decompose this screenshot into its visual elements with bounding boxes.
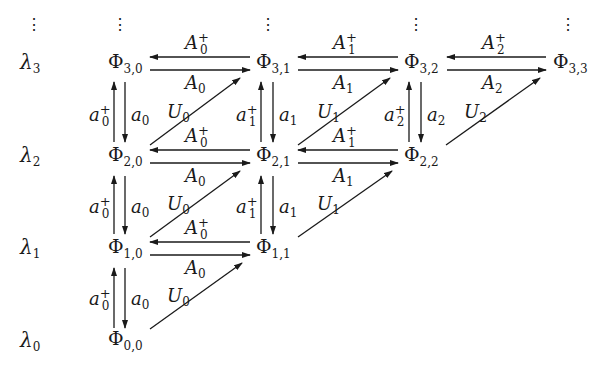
U-labels: U0 U1 U2 U0 U1 U0 [167,101,487,309]
label-A1-r2: A1 [331,165,354,189]
label-a1-lower: a1 [279,196,297,220]
node-phi-3-1: Φ3,1 [256,50,291,76]
label-U0-upper: U0 [167,101,190,125]
vertical-arrows [114,82,421,328]
label-a0plus-lower: a+0 [89,286,111,313]
eigenvalue-labels: λ3 λ2 λ1 λ0 [19,50,40,354]
label-a1-upper: a1 [279,104,297,128]
label-U0-middle: U0 [167,193,190,217]
label-a1plus-upper: a+1 [236,102,258,129]
A-labels: A0 A1 A2 A0 A1 A0 [183,72,503,281]
label-U1-lower: U1 [317,193,340,217]
label-A0plus-r2: A+0 [183,123,209,150]
label-a0plus-upper: a+0 [89,102,111,129]
label-A1plus-r3: A+1 [331,30,357,57]
lambda-2-label: λ2 [19,143,40,169]
label-a2plus: a+2 [384,102,406,129]
lambda-0-label: λ0 [19,328,40,354]
dots-column-2: ⋮ [408,15,424,34]
lambda-3-label: λ3 [19,50,40,76]
node-phi-2-2: Φ2,2 [404,143,439,169]
label-a2: a2 [427,104,445,128]
node-phi-2-1: Φ2,1 [256,143,291,169]
label-A0-r1: A0 [183,257,206,281]
label-A2plus-r3: A+2 [480,30,506,57]
node-phi-3-0: Φ3,0 [108,50,143,76]
label-a0-upper: a0 [131,104,149,128]
label-a0-lower: a0 [131,288,149,312]
label-A0-r3: A0 [183,72,206,96]
dots-lambda-column: ⋮ [26,15,42,34]
label-a0-middle: a0 [131,196,149,220]
A-plus-labels: A+0 A+1 A+2 A+0 A+1 A+0 [183,30,506,242]
dots-column-3: ⋮ [560,15,576,34]
label-U2: U2 [464,101,487,125]
node-phi-0-0: Φ0,0 [108,327,143,353]
label-A0-r2: A0 [183,165,206,189]
node-phi-1-1: Φ1,1 [256,235,291,261]
node-phi-2-0: Φ2,0 [108,143,143,169]
label-A0plus-r3: A+0 [183,30,209,57]
lambda-1-label: λ1 [19,235,40,261]
node-phi-3-2: Φ3,2 [404,50,439,76]
dots-column-0: ⋮ [112,15,128,34]
label-a1plus-lower: a+1 [236,194,258,221]
label-A1plus-r2: A+1 [331,123,357,150]
label-U0-lower: U0 [167,285,190,309]
node-phi-3-3: Φ3,3 [553,50,588,76]
label-U1-upper: U1 [317,101,340,125]
operator-lattice-diagram: ⋮ ⋮ ⋮ ⋮ ⋮ λ3 λ2 λ1 λ0 Φ3,0 Φ3,1 Φ3,2 Φ3,… [0,0,606,372]
label-A2-r3: A2 [480,72,503,96]
node-phi-1-0: Φ1,0 [108,235,143,261]
label-A0plus-r1: A+0 [183,215,209,242]
label-a0plus-middle: a+0 [89,194,111,221]
dots-column-1: ⋮ [260,15,276,34]
label-A1-r3: A1 [331,72,354,96]
